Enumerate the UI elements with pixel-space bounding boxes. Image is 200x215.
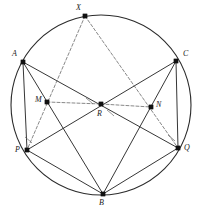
point-label-Q: Q	[184, 144, 190, 152]
point-label-B: B	[99, 199, 104, 207]
midline-R-N	[101, 104, 151, 107]
point-label-M: M	[35, 96, 42, 104]
vertex-point-M	[45, 100, 49, 104]
vertex-point-Q	[176, 146, 180, 150]
vertex-point-A	[21, 60, 25, 64]
point-label-X: X	[76, 4, 81, 12]
point-label-C: C	[183, 50, 188, 58]
chord-A-P	[23, 62, 27, 150]
vertex-point-N	[149, 105, 153, 109]
point-label-R: R	[97, 110, 102, 118]
chord-C-Q	[176, 61, 178, 148]
point-label-P: P	[15, 146, 20, 154]
vertex-point-X	[83, 14, 87, 18]
vertex-point-R	[99, 102, 103, 106]
chord-Q-B	[103, 148, 178, 194]
angle-at-Q	[168, 135, 175, 141]
point-label-N: N	[156, 101, 161, 109]
diagram-canvas	[0, 0, 200, 215]
vertex-point-B	[101, 192, 105, 196]
chord-C-B	[103, 61, 176, 194]
vertex-point-P	[25, 148, 29, 152]
point-label-A: A	[12, 50, 17, 58]
vertex-point-C	[174, 59, 178, 63]
geometry-figure: XACMRNPQB	[0, 0, 200, 215]
